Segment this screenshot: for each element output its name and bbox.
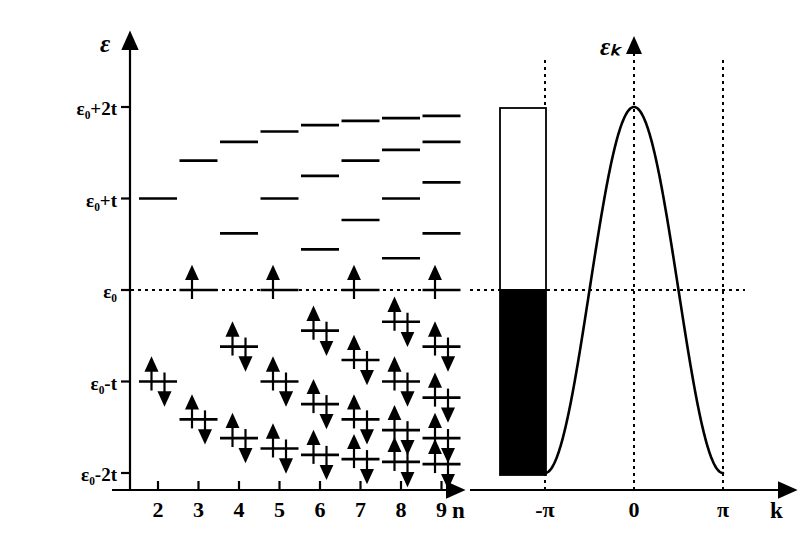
y-tick-label-e0p2t: ε₀+2t [77, 98, 118, 119]
left-y-axis-label: ε [100, 30, 111, 57]
left-x-axis-label: n [452, 498, 465, 523]
x-tick-label-2: 2 [153, 497, 164, 522]
left-x-tick-labels: 23456789 [153, 497, 448, 522]
right-x-axis-label: k [770, 498, 783, 523]
x-tick-label-9: 9 [436, 497, 447, 522]
left-panel-levels: ε₀+2tε₀+tε₀ε₀-tε₀-2t 23456789 [77, 48, 461, 522]
level-column-n9 [423, 116, 461, 476]
level-column-n2 [139, 199, 177, 394]
k-tick-label-1: 0 [629, 497, 640, 522]
x-tick-label-4: 4 [234, 497, 245, 522]
k-tick-label-0: -π [535, 497, 554, 522]
level-column-n8 [382, 118, 420, 474]
figure-root: ε₀+2tε₀+tε₀ε₀-tε₀-2t 23456789 -π0π ε n ε… [0, 0, 809, 551]
x-tick-label-8: 8 [396, 497, 407, 522]
level-column-n5 [261, 132, 299, 461]
right-x-tick-labels: -π0π [535, 497, 729, 522]
band-box-empty-part [500, 108, 546, 290]
level-column-n6 [301, 125, 339, 467]
x-tick-label-7: 7 [355, 497, 366, 522]
y-tick-label-e0mt: ε₀-t [91, 373, 118, 394]
k-tick-label-2: π [717, 497, 729, 522]
left-x-tick-marks [158, 481, 442, 490]
level-column-n4 [220, 142, 258, 450]
level-column-n3 [180, 161, 218, 432]
y-tick-label-e0pt: ε₀+t [86, 190, 118, 211]
level-column-n7 [342, 121, 380, 471]
right-panel-dispersion: -π0π [470, 52, 780, 522]
axis-name-labels: ε n εₖ k [100, 30, 783, 523]
right-y-axis-label: εₖ [600, 33, 623, 60]
y-tick-label-e0: ε₀ [103, 281, 117, 302]
left-y-tick-labels: ε₀+2tε₀+tε₀ε₀-tε₀-2t [77, 98, 118, 485]
band-box-filled-part [500, 290, 546, 475]
energy-levels-group [139, 116, 461, 476]
x-tick-label-6: 6 [315, 497, 326, 522]
figure-canvas: ε₀+2tε₀+tε₀ε₀-tε₀-2t 23456789 -π0π ε n ε… [0, 0, 809, 551]
y-tick-label-e0m2t: ε₀-2t [81, 464, 118, 485]
x-tick-label-5: 5 [274, 497, 285, 522]
x-tick-label-3: 3 [193, 497, 204, 522]
